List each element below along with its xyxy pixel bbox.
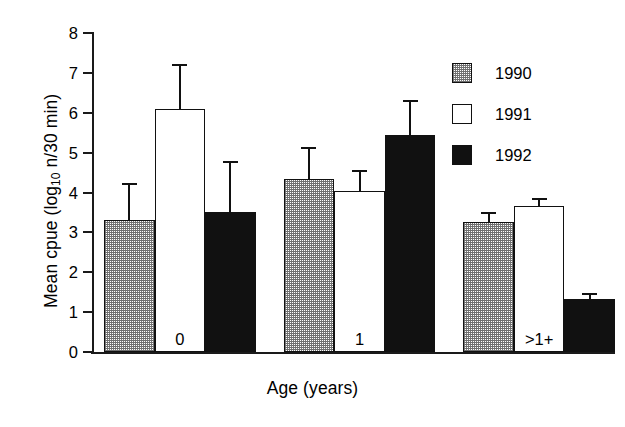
bar-1990-age-0 bbox=[104, 220, 155, 352]
y-axis-tick bbox=[83, 152, 92, 154]
bar-1991-age-0 bbox=[155, 109, 206, 352]
legend-swatch-1990 bbox=[452, 63, 472, 83]
y-axis-tick-label: 1 bbox=[38, 304, 78, 321]
y-axis-tick bbox=[83, 32, 92, 34]
legend-label-1991: 1991 bbox=[495, 106, 532, 123]
bar-1992-age-0 bbox=[205, 212, 256, 352]
y-axis-tick-label: 4 bbox=[38, 185, 78, 202]
bar-chart-figure: Mean cpue (log10 n/30 min) 012345678 01>… bbox=[0, 0, 625, 427]
y-axis-tick-label: 7 bbox=[38, 65, 78, 82]
error-bar-cap bbox=[172, 64, 187, 66]
y-axis-tick-label: 8 bbox=[38, 25, 78, 42]
y-axis-title-main: Mean cpue (log bbox=[41, 186, 61, 308]
error-bar-stem bbox=[179, 64, 181, 109]
bar-1990-age-1 bbox=[463, 222, 514, 352]
y-axis-tick bbox=[83, 112, 92, 114]
x-axis-line bbox=[91, 352, 615, 354]
legend-item-1990: 1990 bbox=[452, 62, 532, 84]
y-axis-tick-label: 0 bbox=[38, 344, 78, 361]
legend-label-1992: 1992 bbox=[495, 147, 532, 164]
error-bar-cap bbox=[352, 170, 367, 172]
y-axis-line bbox=[92, 32, 94, 353]
error-bar-cap bbox=[223, 161, 238, 163]
error-bar-stem bbox=[409, 100, 411, 136]
legend-swatch-1992 bbox=[452, 145, 472, 165]
y-axis-tick bbox=[83, 271, 92, 273]
error-bar-cap bbox=[582, 293, 597, 295]
legend-item-1992: 1992 bbox=[452, 144, 532, 166]
bar-1990-age-1 bbox=[284, 179, 335, 352]
y-axis-tick bbox=[83, 231, 92, 233]
x-axis-label-0: 0 bbox=[175, 330, 184, 349]
error-bar-stem bbox=[359, 170, 361, 191]
y-axis-tick-label: 3 bbox=[38, 224, 78, 241]
plot-area: 012345678 bbox=[92, 33, 615, 352]
x-axis-title: Age (years) bbox=[0, 378, 625, 399]
y-axis-tick bbox=[83, 311, 92, 313]
error-bar-cap bbox=[403, 100, 418, 102]
bar-1992-age-1 bbox=[564, 299, 615, 352]
legend-swatch-1991 bbox=[452, 104, 472, 124]
y-axis-tick bbox=[83, 351, 92, 353]
error-bar-cap bbox=[532, 198, 547, 200]
legend-label-1990: 1990 bbox=[495, 65, 532, 82]
y-axis-tick-label: 6 bbox=[38, 105, 78, 122]
x-axis-label-1: 1 bbox=[355, 330, 364, 349]
error-bar-stem bbox=[128, 183, 130, 220]
error-bar-cap bbox=[122, 183, 137, 185]
error-bar-stem bbox=[308, 147, 310, 180]
y-axis-tick-label: 5 bbox=[38, 145, 78, 162]
error-bar-cap bbox=[481, 212, 496, 214]
bar-1992-age-1 bbox=[385, 135, 436, 352]
y-axis-tick bbox=[83, 192, 92, 194]
y-axis-tick bbox=[83, 72, 92, 74]
y-axis-tick-label: 2 bbox=[38, 264, 78, 281]
legend-item-1991: 1991 bbox=[452, 103, 532, 125]
error-bar-cap bbox=[301, 147, 316, 149]
x-axis-label-1: >1+ bbox=[525, 330, 553, 349]
error-bar-stem bbox=[229, 161, 231, 212]
bar-1991-age-1 bbox=[334, 191, 385, 352]
